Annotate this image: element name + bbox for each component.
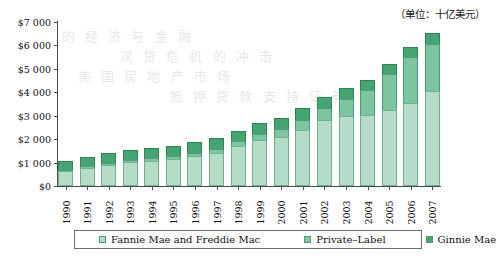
x-axis-tick-label: 1995 (168, 200, 179, 224)
bar-series-group: 1990199119921993199419951996199719981999… (58, 22, 440, 186)
plot-area: $0$1 000$2 000$3 000$4 000$5 000$6 000$7… (58, 22, 440, 186)
bar-segment-private-label (360, 90, 375, 115)
bar-column: 1990 (58, 22, 73, 186)
bar-segment-ginnie-mae (80, 157, 95, 167)
bar-segment-private-label (339, 99, 354, 116)
x-axis-tick-label: 2000 (276, 200, 287, 224)
bar-segment-private-label (425, 44, 440, 91)
x-axis-tick (368, 186, 369, 190)
x-axis-tick-label: 2006 (405, 200, 416, 224)
bar-column: 1991 (80, 22, 95, 186)
bar-segment-fannie-mae-and-freddie-mac (252, 140, 267, 186)
bar-segment-fannie-mae-and-freddie-mac (339, 116, 354, 186)
y-axis-tick-label: $1 000 (18, 157, 51, 168)
stacked-bar (360, 80, 375, 186)
bar-segment-fannie-mae-and-freddie-mac (209, 153, 224, 186)
x-axis-tick (303, 186, 304, 190)
bar-segment-fannie-mae-and-freddie-mac (144, 161, 159, 186)
stacked-bar (166, 146, 181, 186)
legend-swatch-fannie-freddie (99, 236, 106, 243)
x-axis-tick-label: 1990 (60, 200, 71, 224)
bar-segment-ginnie-mae (339, 88, 354, 99)
x-axis-tick-label: 1994 (146, 200, 157, 224)
stacked-bar (252, 123, 267, 186)
x-axis-tick (87, 186, 88, 190)
bar-segment-fannie-mae-and-freddie-mac (382, 110, 397, 186)
bar-column: 1998 (231, 22, 246, 186)
bar-segment-fannie-mae-and-freddie-mac (187, 156, 202, 186)
chart-legend: Fannie Mae and Freddie Mac Private–Label… (74, 230, 422, 249)
x-axis-tick (173, 186, 174, 190)
x-axis-tick (324, 186, 325, 190)
bar-column: 2005 (382, 22, 397, 186)
bar-column: 1999 (252, 22, 267, 186)
legend-item-ginnie-mae: Ginnie Mae (426, 234, 496, 245)
x-axis-tick-label: 2007 (427, 200, 438, 224)
bar-segment-fannie-mae-and-freddie-mac (425, 91, 440, 186)
stacked-bar (425, 33, 440, 186)
bar-segment-fannie-mae-and-freddie-mac (80, 168, 95, 186)
bar-segment-fannie-mae-and-freddie-mac (274, 137, 289, 186)
stacked-bar (144, 148, 159, 186)
bar-column: 2000 (274, 22, 289, 186)
bar-segment-fannie-mae-and-freddie-mac (360, 115, 375, 186)
bar-segment-fannie-mae-and-freddie-mac (58, 171, 73, 186)
x-axis-tick-label: 1996 (189, 200, 200, 224)
bar-column: 1997 (209, 22, 224, 186)
bar-segment-private-label (403, 57, 418, 103)
stacked-bar (295, 108, 310, 186)
bar-segment-ginnie-mae (231, 131, 246, 142)
x-axis-tick-label: 2001 (297, 200, 308, 224)
x-axis-tick (109, 186, 110, 190)
x-axis-tick-label: 2002 (319, 200, 330, 224)
bar-segment-ginnie-mae (209, 138, 224, 149)
y-axis-tick (54, 186, 58, 187)
bar-column: 2006 (403, 22, 418, 186)
bar-column: 2004 (360, 22, 375, 186)
bar-segment-fannie-mae-and-freddie-mac (166, 159, 181, 186)
legend-label-private-label: Private–Label (316, 234, 385, 245)
x-axis-line (57, 186, 441, 187)
x-axis-tick (130, 186, 131, 190)
x-axis-tick-label: 1993 (125, 200, 136, 224)
x-axis-tick-label: 1999 (254, 200, 265, 224)
x-axis-tick (432, 186, 433, 190)
bar-segment-ginnie-mae (252, 123, 267, 134)
y-axis-tick-label: $2 000 (18, 134, 51, 145)
x-axis-tick-label: 2004 (362, 200, 373, 224)
x-axis-tick (260, 186, 261, 190)
bar-segment-private-label (317, 108, 332, 121)
y-axis-tick-label: $7 000 (18, 17, 51, 28)
legend-swatch-private-label (304, 236, 311, 243)
stacked-bar (209, 138, 224, 186)
bar-segment-fannie-mae-and-freddie-mac (123, 162, 138, 186)
bar-segment-private-label (274, 129, 289, 136)
stacked-bar (274, 118, 289, 186)
bar-column: 2003 (339, 22, 354, 186)
bar-segment-ginnie-mae (295, 108, 310, 119)
bar-segment-ginnie-mae (58, 161, 73, 170)
bar-segment-ginnie-mae (166, 146, 181, 156)
legend-swatch-ginnie-mae (426, 236, 433, 243)
bar-column: 1992 (101, 22, 116, 186)
x-axis-tick (281, 186, 282, 190)
stacked-bar (339, 88, 354, 186)
x-axis-tick-label: 1991 (82, 200, 93, 224)
x-axis-tick (66, 186, 67, 190)
x-axis-tick (346, 186, 347, 190)
stacked-bar (187, 142, 202, 186)
x-axis-tick (411, 186, 412, 190)
x-axis-tick (195, 186, 196, 190)
bar-column: 2007 (425, 22, 440, 186)
bar-segment-ginnie-mae (382, 64, 397, 74)
bar-column: 1996 (187, 22, 202, 186)
bar-column: 1993 (123, 22, 138, 186)
y-axis-tick-label: $6 000 (18, 40, 51, 51)
y-axis-tick-label: $3 000 (18, 110, 51, 121)
y-axis-tick-label: $4 000 (18, 87, 51, 98)
x-axis-tick-label: 1997 (211, 200, 222, 224)
bar-segment-fannie-mae-and-freddie-mac (317, 120, 332, 186)
bar-segment-fannie-mae-and-freddie-mac (101, 165, 116, 186)
x-axis-tick-label: 2005 (384, 200, 395, 224)
